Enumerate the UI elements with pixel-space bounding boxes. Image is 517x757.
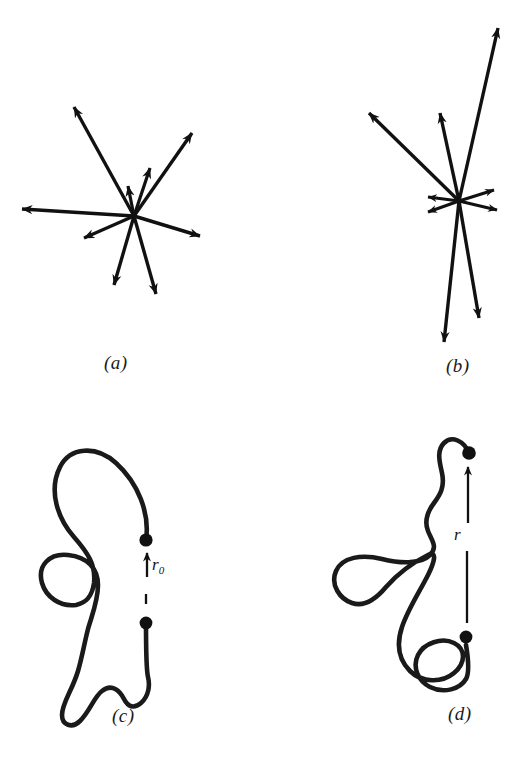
panel-b-caption: (b)	[446, 355, 470, 377]
label-r-zero-symbol: r	[152, 555, 159, 574]
vector-up-right-short	[134, 168, 150, 216]
panel-c-chain-diagram	[0, 395, 258, 757]
vector-down-right-long	[459, 201, 479, 318]
vector-up-medium	[440, 113, 459, 201]
panel-b: (b)	[258, 0, 517, 395]
chain-end-dot-upper	[462, 446, 476, 460]
label-r: r	[454, 525, 461, 545]
vector-down-right	[134, 216, 156, 294]
vector-left-long	[22, 209, 134, 216]
vector-right-down-short	[459, 201, 497, 210]
vector-down-left	[114, 216, 134, 285]
vector-left-down-short	[428, 201, 459, 212]
vector-down-left-long	[444, 201, 459, 342]
panel-a-caption: (a)	[104, 352, 128, 374]
label-r-zero: r0	[152, 555, 164, 576]
vector-left-down	[84, 216, 134, 238]
panel-d: r (d)	[258, 395, 517, 757]
label-r-symbol: r	[454, 525, 461, 544]
chain-end-dot-upper	[139, 533, 152, 546]
vector-right-down	[134, 216, 200, 236]
chain-end-dot-lower	[460, 631, 473, 644]
figure-container: (a)	[0, 0, 517, 757]
panel-d-chain-diagram	[258, 395, 517, 757]
vector-up-right-long	[459, 28, 498, 201]
panel-c-caption: (c)	[112, 705, 135, 727]
chain-end-dot-lower	[140, 617, 153, 630]
label-r-zero-subscript: 0	[159, 564, 165, 576]
polymer-chain-curve	[41, 451, 149, 726]
panel-a-vector-diagram	[0, 0, 258, 395]
panel-c: r0 (c)	[0, 395, 258, 757]
panel-a: (a)	[0, 0, 258, 395]
vector-right-up-short	[459, 190, 494, 201]
end-to-end-vector-r	[467, 467, 468, 623]
end-to-end-vector-r0	[146, 553, 147, 604]
polymer-chain-curve	[334, 439, 469, 690]
panel-d-caption: (d)	[448, 703, 472, 725]
panel-b-vector-diagram	[258, 0, 517, 395]
vector-up-left-long	[74, 107, 134, 216]
vector-up-right-long	[134, 133, 192, 216]
vector-up-left-long	[369, 113, 459, 201]
